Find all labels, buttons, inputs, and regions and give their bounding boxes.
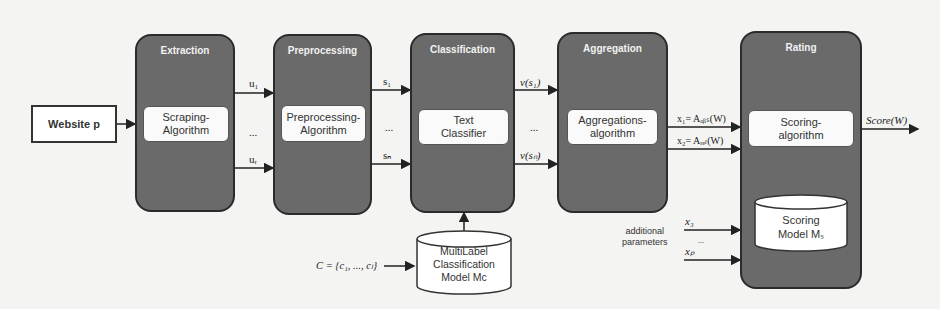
scoring-model-label: Scoring Model Mₛ [754, 213, 848, 241]
preprocessing-algorithm-box: Preprocessing- Algorithm [281, 105, 366, 142]
text-classifier-box: Text Classifier [418, 109, 509, 145]
edge-label-dots: ... [249, 126, 257, 138]
edge-label-v-sn: v(sₙ) [520, 149, 541, 162]
edge-label-sn: sₙ [383, 149, 391, 162]
stage-title: Classification [412, 44, 513, 55]
stage-title: Aggregation [559, 43, 666, 54]
edge-label-ur: uᵣ [249, 153, 257, 165]
edge-label-dots: ... [698, 236, 704, 245]
edge-label-v-s1: v(s₁) [520, 76, 540, 88]
stage-title: Rating [742, 42, 860, 53]
stage-title: Preprocessing [275, 45, 370, 56]
stage-aggregation: Aggregation Aggregations- algorithm [557, 32, 668, 213]
stage-classification: Classification Text Classifier [410, 33, 515, 213]
aggregations-algorithm-box: Aggregations- algorithm [567, 109, 658, 145]
stage-title: Extraction [137, 45, 233, 56]
scraping-algorithm-box: Scraping- Algorithm [143, 106, 229, 142]
edge-label-x2-rel: x₂= Aᵣₑₗ(W) [677, 135, 723, 146]
edge-label-s1: s₁ [383, 75, 391, 87]
website-input-box: Website p [31, 105, 117, 143]
edge-label-dots: ... [530, 121, 538, 133]
stage-preprocessing: Preprocessing Preprocessing- Algorithm [273, 34, 372, 215]
score-output-label: Score(W) [866, 114, 907, 126]
edge-label-x1-abs: x₁= Aₐᵦₛ(W) [677, 113, 726, 124]
additional-parameters-label: additional parameters [622, 226, 668, 248]
edge-label-dots: ... [385, 121, 393, 133]
class-set-label: C = {c₁, ..., cₗ} [316, 259, 377, 271]
edge-label-xp: xₚ [685, 245, 695, 258]
classification-model-label: MultiLabel Classification Model Mᴄ [416, 245, 512, 284]
stage-extraction: Extraction Scraping- Algorithm [135, 34, 235, 212]
website-label: Website p [48, 118, 100, 130]
scoring-algorithm-box: Scoring- algorithm [748, 110, 854, 147]
edge-label-x3: x₃ [685, 215, 694, 227]
edge-label-u1: u₁ [249, 77, 258, 89]
